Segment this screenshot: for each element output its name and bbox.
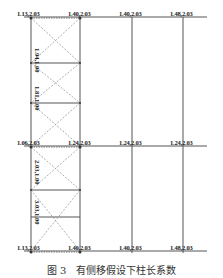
figure-caption: 图 3 有侧移假设下柱长系数 xyxy=(0,262,223,277)
node-label-top-1: 1.40,2.03 xyxy=(68,10,91,17)
node-label-bot-1: 1.40,2.03 xyxy=(68,244,91,251)
node-label-top-3: 1.48,2.03 xyxy=(170,10,193,17)
node-label-bot-3: 1.48,2.03 xyxy=(170,244,193,251)
column-segment-label-3: 3.03,1.00 xyxy=(34,200,41,224)
node-label-mid-1: 1.24,2.03 xyxy=(68,139,91,146)
column-segment-label-2: 2.03,1.00 xyxy=(34,160,41,184)
node-label-mid-0: 1.06,2.03 xyxy=(17,139,40,146)
column-segment-label-1: 1.81,1.00 xyxy=(34,86,41,110)
frame-diagram: 1.13,2.03 1.40,2.03 1.40,2.03 1.48,2.03 … xyxy=(0,0,223,278)
node-label-top-2: 1.40,2.03 xyxy=(119,10,142,17)
node-label-mid-2: 1.24,2.03 xyxy=(119,139,142,146)
column-segment-label-0: 1.94,1.00 xyxy=(34,48,41,72)
x-braces-upper xyxy=(31,18,80,146)
node-label-bot-0: 1.13,2.03 xyxy=(17,244,40,251)
node-label-bot-2: 1.40,2.03 xyxy=(119,244,142,251)
node-label-top-0: 1.13,2.03 xyxy=(17,10,40,17)
node-label-mid-3: 1.24,2.03 xyxy=(170,139,193,146)
